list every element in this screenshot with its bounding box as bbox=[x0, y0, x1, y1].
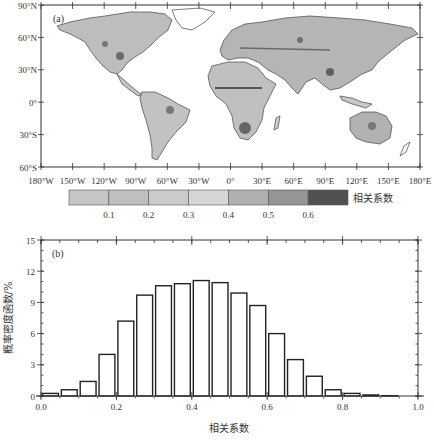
colorbar-tick-label: 0.5 bbox=[263, 210, 275, 220]
histogram-bar bbox=[212, 283, 228, 396]
histogram-bar bbox=[231, 293, 247, 396]
lat-tick-label: 60°S bbox=[19, 163, 37, 173]
map-panel: 90°N60°N30°N0°30°S60°S 180°W150°W120°W90… bbox=[18, 1, 432, 187]
lat-tick-label: 90°N bbox=[18, 1, 38, 11]
figure: 90°N60°N30°N0°30°S60°S 180°W150°W120°W90… bbox=[0, 0, 434, 443]
histogram-bar bbox=[288, 360, 304, 396]
x-tick-label: 0.4 bbox=[186, 402, 198, 412]
x-tick-label: 1.0 bbox=[412, 402, 424, 412]
histogram-bar bbox=[118, 321, 134, 396]
x-tick-label: 0.6 bbox=[262, 402, 274, 412]
x-tick-label: 0.8 bbox=[337, 402, 349, 412]
colorbar-segment bbox=[228, 190, 268, 205]
panel-a-label: (a) bbox=[53, 13, 64, 25]
y-tick-label: 12 bbox=[26, 267, 35, 277]
histogram-panel: 0.00.20.40.60.81.0 03691215 (b) 相关系数 概率密… bbox=[2, 236, 424, 435]
y-tick-label: 0 bbox=[31, 392, 36, 402]
x-tick-label: 0.2 bbox=[111, 402, 122, 412]
lat-tick-label: 60°N bbox=[18, 33, 38, 43]
colorbar-tick-label: 0.4 bbox=[223, 210, 235, 220]
y-axis-title: 概率密度函数/% bbox=[2, 282, 14, 355]
lon-tick-label: 30°E bbox=[253, 176, 272, 186]
y-tick-label: 3 bbox=[31, 360, 36, 370]
lon-tick-label: 180°W bbox=[28, 176, 54, 186]
panel-b-label: (b) bbox=[52, 248, 64, 260]
histogram-bar bbox=[99, 354, 115, 396]
x-tick-label: 0.0 bbox=[35, 402, 47, 412]
histogram-bar bbox=[137, 295, 153, 396]
colorbar-tick-label: 0.6 bbox=[303, 210, 315, 220]
x-axis-title: 相关系数 bbox=[209, 422, 249, 434]
lon-tick-label: 90°E bbox=[316, 176, 335, 186]
lon-tick-label: 180°E bbox=[409, 176, 432, 186]
lat-tick-label: 0° bbox=[29, 98, 38, 108]
histogram-bar bbox=[250, 306, 266, 396]
histogram-bar bbox=[174, 284, 190, 396]
histogram-bar bbox=[325, 390, 341, 396]
y-tick-label: 6 bbox=[31, 329, 36, 339]
histogram-bars bbox=[43, 281, 398, 396]
lon-tick-label: 120°E bbox=[346, 176, 369, 186]
colorbar-tick-label: 0.3 bbox=[183, 210, 195, 220]
colorbar-segment bbox=[109, 190, 149, 205]
colorbar: 0.10.20.30.40.50.6 bbox=[69, 190, 348, 220]
lon-tick-label: 0° bbox=[226, 176, 235, 186]
lon-tick-label: 30°W bbox=[188, 176, 210, 186]
lon-tick-label: 150°E bbox=[377, 176, 400, 186]
histogram-bar bbox=[156, 286, 172, 396]
colorbar-title: 相关系数 bbox=[353, 192, 393, 204]
figure-canvas: 90°N60°N30°N0°30°S60°S 180°W150°W120°W90… bbox=[0, 0, 434, 443]
colorbar-segment bbox=[149, 190, 189, 205]
histogram-bar bbox=[80, 381, 96, 396]
colorbar-tick-label: 0.2 bbox=[143, 210, 154, 220]
colorbar-segment bbox=[189, 190, 229, 205]
lon-tick-label: 60°W bbox=[157, 176, 179, 186]
colorbar-segment bbox=[69, 190, 109, 205]
histogram-bar bbox=[193, 281, 209, 396]
lon-tick-label: 60°E bbox=[285, 176, 304, 186]
colorbar-segment bbox=[308, 190, 348, 205]
lat-tick-label: 30°N bbox=[18, 65, 38, 75]
lon-tick-label: 120°W bbox=[91, 176, 117, 186]
colorbar-tick-label: 0.1 bbox=[103, 210, 114, 220]
histogram-bar bbox=[61, 390, 77, 396]
y-tick-label: 15 bbox=[26, 236, 36, 246]
lon-tick-label: 150°W bbox=[60, 176, 86, 186]
land-shading bbox=[57, 8, 418, 160]
histogram-bar bbox=[269, 334, 285, 396]
histogram-bar bbox=[306, 376, 322, 396]
y-tick-label: 9 bbox=[31, 298, 36, 308]
lon-tick-label: 90°W bbox=[125, 176, 147, 186]
colorbar-segment bbox=[268, 190, 308, 205]
lat-tick-label: 30°S bbox=[19, 130, 37, 140]
